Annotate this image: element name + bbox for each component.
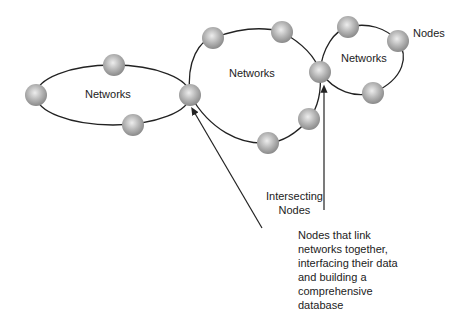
- node: [25, 84, 47, 106]
- node: [257, 132, 279, 154]
- description-text: Nodes that link networks together, inter…: [298, 228, 398, 312]
- intersecting-nodes-label: Intersecting Nodes: [266, 189, 323, 217]
- node: [337, 16, 359, 38]
- nodes-label: Nodes: [413, 27, 445, 39]
- network-middle-label: Networks: [229, 67, 275, 79]
- node: [271, 21, 293, 43]
- node: [298, 108, 320, 130]
- node: [202, 27, 224, 49]
- node: [122, 114, 144, 136]
- intersecting-node-right: [309, 61, 331, 83]
- arrow-to-left-intersect: [193, 110, 262, 228]
- nodes: [25, 16, 409, 154]
- network-left-label: Networks: [85, 88, 131, 100]
- network-diagram: [0, 0, 471, 319]
- node: [103, 54, 125, 76]
- intersecting-node-left: [179, 84, 201, 106]
- node: [387, 30, 409, 52]
- network-right-label: Networks: [341, 52, 387, 64]
- node: [362, 82, 384, 104]
